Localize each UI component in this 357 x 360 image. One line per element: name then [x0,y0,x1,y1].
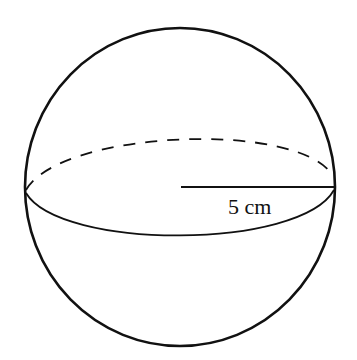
sphere-diagram: 5 cm [0,0,357,360]
equator-front [26,190,334,235]
radius-label: 5 cm [228,194,271,219]
equator-back-dashed [26,139,333,190]
